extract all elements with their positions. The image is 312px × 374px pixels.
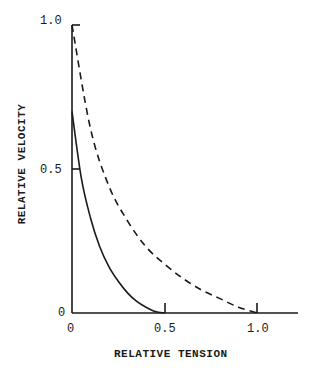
- solid-curve: [72, 111, 165, 313]
- y-axis-title: RELATIVE VELOCITY: [16, 104, 28, 225]
- dashed-curve: [72, 25, 257, 313]
- y-tick-label: 0: [58, 307, 65, 319]
- y-tick-label: 1.0: [40, 15, 62, 27]
- x-axis-title: RELATIVE TENSION: [114, 348, 228, 360]
- x-tick-label: 0.5: [154, 323, 176, 335]
- x-tick-label: 1.0: [247, 323, 269, 335]
- plot-area: [0, 0, 312, 374]
- y-tick-label: 0.5: [40, 164, 62, 176]
- x-tick-label: 0: [67, 323, 74, 335]
